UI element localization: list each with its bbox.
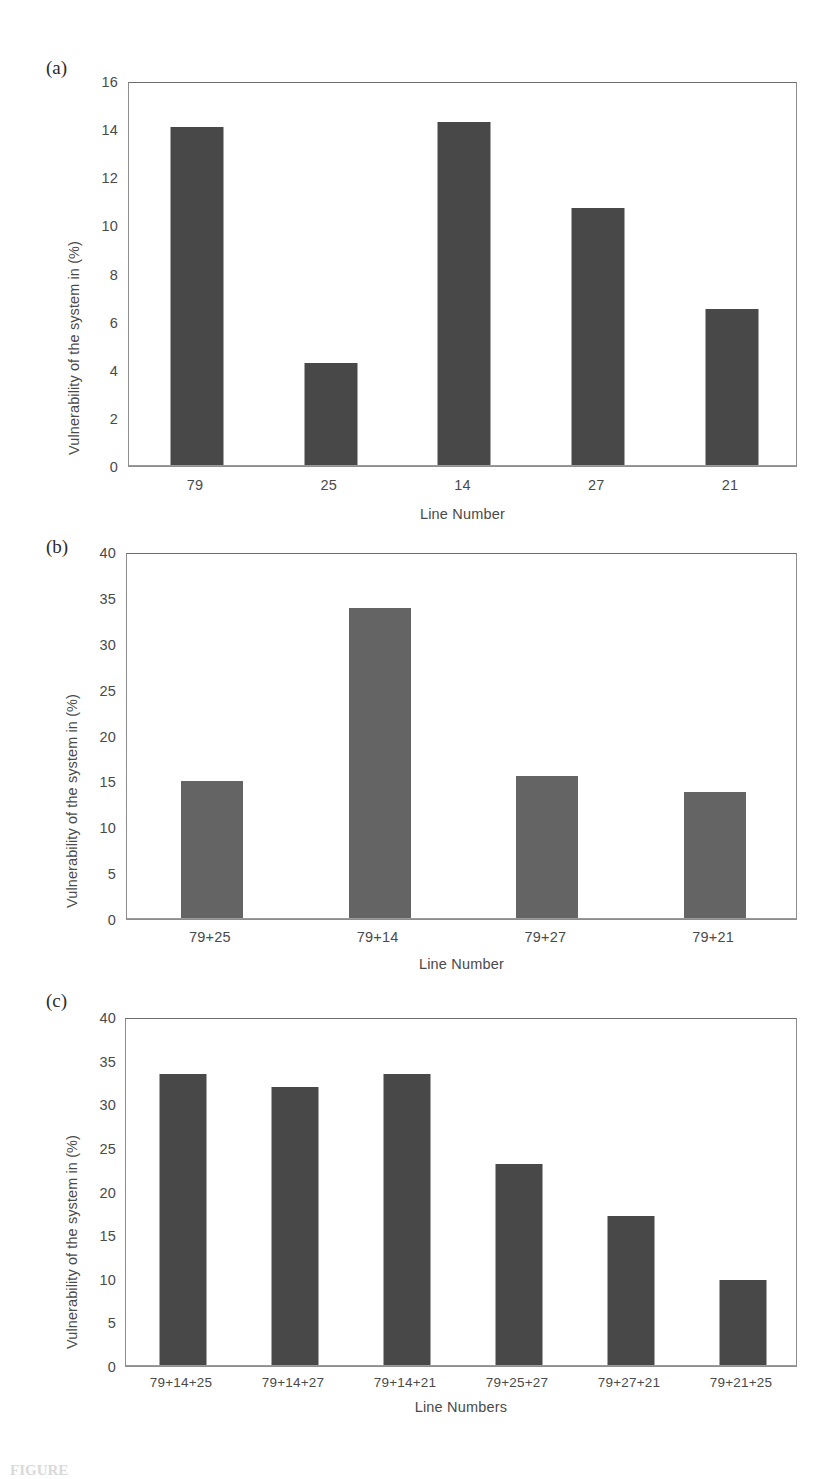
chart-b-y-axis-title: Vulnerability of the system in (%): [64, 694, 80, 908]
chart-b-bar[interactable]: [181, 781, 243, 918]
chart-c-x-axis-title: Line Numbers: [125, 1399, 797, 1415]
chart-a-x-tick: 27: [529, 477, 663, 493]
chart-c-plot-area: [125, 1018, 797, 1367]
chart-a-y-tick: 4: [110, 363, 118, 379]
chart-c-bar[interactable]: [384, 1074, 431, 1365]
chart-a-y-tick: 12: [101, 170, 118, 186]
chart-c-y-tick: 10: [99, 1272, 116, 1288]
chart-c-bar-slot: [127, 1020, 239, 1365]
chart-b-x-tick: 79+14: [294, 929, 462, 945]
chart-b-x-tick: 79+27: [462, 929, 630, 945]
chart-c-bar-slot: [687, 1020, 799, 1365]
chart-b-bar[interactable]: [516, 776, 578, 918]
chart-c-x-tick: 79+25+27: [461, 1375, 573, 1390]
chart-c-bar-slot: [575, 1020, 687, 1365]
chart-a-bar[interactable]: [304, 363, 357, 465]
panel-b: (b) Vulnerability of the system in (%) 0…: [0, 520, 838, 973]
chart-a-bar[interactable]: [438, 122, 491, 466]
chart-c-y-tick: 40: [99, 1010, 116, 1026]
chart-c-x-tick: 79+14+25: [125, 1375, 237, 1390]
chart-b-bars: [128, 555, 795, 918]
chart-a-y-tick: 14: [101, 122, 118, 138]
chart-b-x-tick: 79+21: [629, 929, 797, 945]
chart-c-bar-slot: [239, 1020, 351, 1365]
chart-a-y-tick: 2: [110, 411, 118, 427]
chart-b-y-tick: 15: [99, 774, 116, 790]
chart-c-bar-slot: [463, 1020, 575, 1365]
chart-c-bar[interactable]: [272, 1087, 319, 1365]
chart-a-x-tick: 14: [396, 477, 530, 493]
figure-caption: FIGURE: [10, 1462, 68, 1479]
chart-a-bar-slot: [665, 84, 799, 465]
chart-c-baseline: [126, 1365, 796, 1366]
chart-c-y-tick: 25: [99, 1141, 116, 1157]
chart-a-bar-slot: [398, 84, 532, 465]
chart-c-y-tick: 20: [99, 1185, 116, 1201]
chart-b-y-tick: 10: [99, 820, 116, 836]
chart-b-bar-slot: [128, 555, 296, 918]
chart-a-y-tick: 6: [110, 315, 118, 331]
chart-b-baseline: [127, 918, 796, 919]
chart-b-y-tick: 40: [99, 545, 116, 561]
chart-c-y-tick: 0: [108, 1359, 116, 1375]
chart-c-bars: [127, 1020, 795, 1365]
chart-b-y-tick: 30: [99, 637, 116, 653]
chart-a-x-tick: 79: [128, 477, 262, 493]
chart-b: Vulnerability of the system in (%) 05101…: [0, 520, 838, 973]
chart-b-bar[interactable]: [349, 608, 411, 918]
chart-a-bar[interactable]: [170, 127, 223, 465]
chart-b-plot-area: [126, 553, 797, 920]
chart-c-y-tick: 35: [99, 1054, 116, 1070]
chart-b-y-tick: 35: [99, 591, 116, 607]
chart-c-bar[interactable]: [608, 1216, 655, 1365]
chart-c-x-tick: 79+14+21: [349, 1375, 461, 1390]
chart-a-bar-slot: [531, 84, 665, 465]
chart-b-y-tick: 25: [99, 683, 116, 699]
chart-a-baseline: [129, 465, 796, 466]
chart-c-x-tick: 79+27+21: [573, 1375, 685, 1390]
chart-c-x-tick: 79+21+25: [685, 1375, 797, 1390]
chart-a: Vulnerability of the system in (%) 02468…: [0, 0, 838, 520]
chart-c-bar[interactable]: [496, 1164, 543, 1365]
chart-a-y-tick: 8: [110, 267, 118, 283]
chart-a-bar-slot: [130, 84, 264, 465]
chart-a-plot-area: [128, 82, 797, 467]
chart-b-bar-slot: [464, 555, 632, 918]
chart-a-y-axis-title: Vulnerability of the system in (%): [66, 241, 82, 455]
chart-b-y-tick: 20: [99, 729, 116, 745]
chart-a-bars: [130, 84, 795, 465]
chart-c: Vulnerability of the system in (%) 05101…: [0, 973, 838, 1413]
chart-a-bar-slot: [264, 84, 398, 465]
chart-c-bar[interactable]: [720, 1280, 767, 1365]
chart-b-bar-slot: [296, 555, 464, 918]
chart-a-bar[interactable]: [572, 208, 625, 465]
chart-a-y-tick: 0: [110, 459, 118, 475]
chart-c-bar[interactable]: [160, 1074, 207, 1365]
chart-a-x-tick: 25: [262, 477, 396, 493]
chart-a-x-tick: 21: [663, 477, 797, 493]
chart-a-bar[interactable]: [706, 309, 759, 465]
chart-b-y-tick: 5: [108, 866, 116, 882]
chart-c-y-axis-title: Vulnerability of the system in (%): [64, 1135, 80, 1349]
chart-a-y-tick: 10: [101, 218, 118, 234]
chart-b-y-tick: 0: [108, 912, 116, 928]
chart-c-bar-slot: [351, 1020, 463, 1365]
chart-b-bar-slot: [631, 555, 799, 918]
chart-a-y-tick: 16: [101, 74, 118, 90]
panel-a: (a) Vulnerability of the system in (%) 0…: [0, 0, 838, 520]
chart-c-y-tick: 5: [108, 1315, 116, 1331]
chart-b-x-tick: 79+25: [126, 929, 294, 945]
chart-b-bar[interactable]: [684, 792, 746, 918]
chart-c-y-tick: 15: [99, 1228, 116, 1244]
chart-c-y-tick: 30: [99, 1097, 116, 1113]
chart-b-x-axis-title: Line Number: [126, 956, 797, 972]
chart-c-x-tick: 79+14+27: [237, 1375, 349, 1390]
panel-c: (c) Vulnerability of the system in (%) 0…: [0, 973, 838, 1471]
